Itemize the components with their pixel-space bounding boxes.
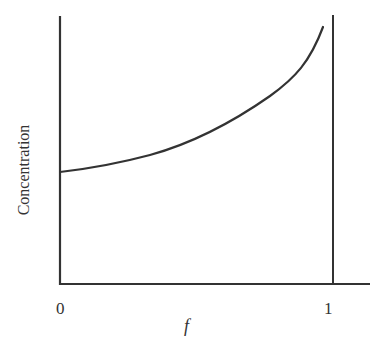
x-axis-label: f [184,316,192,336]
x-tick-1: 1 [324,299,333,318]
chart: 0 1 f Concentration [0,0,381,347]
concentration-curve [60,27,323,172]
y-axis-label: Concentration [15,125,32,216]
x-tick-0: 0 [56,299,65,318]
